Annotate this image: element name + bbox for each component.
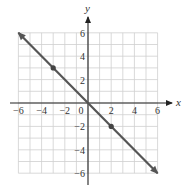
x-tick-label: 6 (155, 105, 160, 116)
x-axis-label: x (175, 96, 181, 108)
x-tick-label: −4 (36, 105, 47, 116)
y-axis-label: y (84, 2, 90, 14)
y-tick-label: −2 (74, 121, 85, 132)
y-tick-label: 4 (80, 51, 85, 62)
x-tick-label: −2 (59, 105, 70, 116)
data-point (109, 124, 114, 129)
coordinate-plot: −6−4−20246−6−4−2246 x y (0, 0, 186, 191)
x-tick-label: 2 (109, 105, 114, 116)
x-tick-label: −6 (13, 105, 24, 116)
y-tick-label: −6 (74, 168, 85, 179)
data-point (51, 65, 56, 70)
axes (10, 17, 172, 185)
y-tick-label: −4 (74, 145, 85, 156)
y-tick-label: 6 (80, 28, 85, 39)
x-tick-label: 4 (132, 105, 137, 116)
x-tick-label: 0 (79, 105, 84, 116)
y-tick-label: 2 (80, 75, 85, 86)
